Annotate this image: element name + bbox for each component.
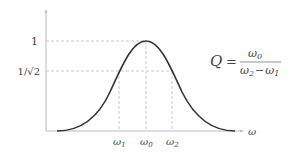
y-tick-one: 1 [31,35,38,48]
x-tick-omega2: ω2 [166,136,179,149]
formula-equals: = [226,54,237,69]
formula-denominator: ω2−ω1 [240,64,279,78]
x-axis-arrow-icon [240,130,244,133]
x-axis-label: ω [248,126,256,137]
formula-q: Q [210,52,222,70]
y-tick-inv-sqrt2: 1/√2 [18,66,40,77]
formula-numerator: ω0 [248,47,262,61]
x-tick-omega0: ω0 [140,136,153,149]
x-tick-omega1: ω1 [113,136,126,149]
resonance-diagram: 1 1/√2 ω1 ω0 ω2 ω Q = ω0 ω2−ω1 [0,0,296,154]
y-axis-arrow-icon [45,9,48,13]
